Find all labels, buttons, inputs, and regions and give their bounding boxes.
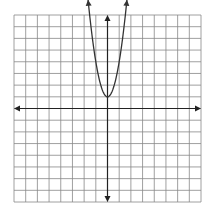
- coordinate-axes: [14, 15, 201, 202]
- graph-canvas: [0, 0, 209, 217]
